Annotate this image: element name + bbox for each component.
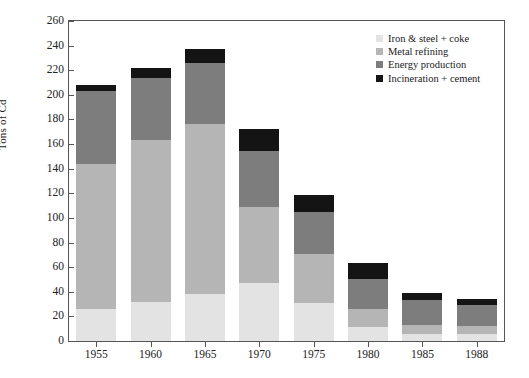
x-axis-tick-mark	[259, 342, 260, 347]
bar-segment[interactable]	[239, 283, 279, 341]
bar-group[interactable]	[239, 129, 279, 341]
bar-segment[interactable]	[239, 129, 279, 151]
legend-swatch-icon	[376, 61, 383, 68]
bar-segment[interactable]	[348, 309, 388, 327]
bar-segment[interactable]	[76, 309, 116, 341]
x-axis-tick-mark	[151, 342, 152, 347]
bar-segment[interactable]	[402, 325, 442, 334]
bar-segment[interactable]	[457, 334, 497, 341]
x-axis-tick-label: 1988	[447, 348, 507, 360]
stacked-bar-chart: Tons of Cd Iron & steel + cokeMetal refi…	[0, 0, 529, 378]
legend-item[interactable]: Incineration + cement	[376, 72, 480, 85]
y-axis-tick-label: 60	[0, 261, 64, 273]
legend-swatch-icon	[376, 48, 383, 55]
y-axis-tick-mark	[68, 70, 74, 71]
x-axis-tick-label: 1960	[121, 348, 181, 360]
y-axis-tick-label: 180	[0, 114, 64, 126]
legend-item[interactable]: Metal refining	[376, 45, 480, 58]
y-axis-tick-label: 240	[0, 40, 64, 52]
y-axis-tick-label: 200	[0, 89, 64, 101]
bar-segment[interactable]	[402, 293, 442, 300]
y-axis-tick-mark	[68, 95, 74, 96]
x-axis-tick-mark	[477, 342, 478, 347]
y-axis-tick-label: 0	[0, 335, 64, 347]
bar-segment[interactable]	[294, 212, 334, 254]
y-axis-tick-label: 220	[0, 64, 64, 76]
legend-swatch-icon	[376, 35, 383, 42]
bar-segment[interactable]	[185, 124, 225, 294]
bar-group[interactable]	[402, 293, 442, 341]
bar-segment[interactable]	[185, 294, 225, 341]
y-axis-tick-mark	[68, 218, 74, 219]
bar-segment[interactable]	[294, 303, 334, 341]
bar-segment[interactable]	[457, 326, 497, 333]
legend-item-label: Incineration + cement	[388, 72, 480, 85]
bar-group[interactable]	[185, 49, 225, 341]
y-axis-tick-mark	[68, 316, 74, 317]
bar-group[interactable]	[348, 263, 388, 341]
x-axis-tick-label: 1975	[284, 348, 344, 360]
y-axis-tick-label: 120	[0, 188, 64, 200]
legend-item[interactable]: Energy production	[376, 58, 480, 71]
legend-item-label: Energy production	[388, 58, 466, 71]
legend-swatch-icon	[376, 75, 383, 82]
bar-segment[interactable]	[131, 140, 171, 301]
y-axis-tick-mark	[68, 169, 74, 170]
y-axis-tick-mark	[68, 267, 74, 268]
x-axis-tick-label: 1980	[338, 348, 398, 360]
bar-segment[interactable]	[239, 207, 279, 283]
bar-segment[interactable]	[402, 334, 442, 341]
bar-segment[interactable]	[294, 195, 334, 212]
y-axis-tick-mark	[68, 341, 74, 342]
x-axis-tick-label: 1970	[229, 348, 289, 360]
bar-group[interactable]	[131, 68, 171, 341]
x-axis-tick-mark	[368, 342, 369, 347]
bar-segment[interactable]	[348, 279, 388, 309]
bar-group[interactable]	[76, 85, 116, 341]
bar-segment[interactable]	[348, 327, 388, 341]
y-axis-tick-label: 260	[0, 15, 64, 27]
bar-segment[interactable]	[131, 68, 171, 78]
bar-segment[interactable]	[76, 164, 116, 309]
bar-segment[interactable]	[294, 254, 334, 303]
x-axis-tick-label: 1955	[66, 348, 126, 360]
y-axis-tick-label: 40	[0, 286, 64, 298]
bar-segment[interactable]	[239, 151, 279, 206]
bar-segment[interactable]	[131, 78, 171, 141]
legend-item-label: Iron & steel + coke	[388, 32, 469, 45]
y-axis-tick-label: 100	[0, 212, 64, 224]
y-axis-tick-mark	[68, 144, 74, 145]
legend-item[interactable]: Iron & steel + coke	[376, 32, 480, 45]
y-axis-tick-mark	[68, 46, 74, 47]
bar-segment[interactable]	[402, 300, 442, 325]
x-axis-tick-mark	[96, 342, 97, 347]
x-axis-tick-mark	[422, 342, 423, 347]
bar-segment[interactable]	[131, 302, 171, 341]
x-axis-tick-label: 1985	[392, 348, 452, 360]
bar-group[interactable]	[294, 195, 334, 341]
y-axis-tick-mark	[68, 119, 74, 120]
bar-segment[interactable]	[76, 91, 116, 164]
y-axis-tick-mark	[68, 243, 74, 244]
y-axis-tick-label: 20	[0, 311, 64, 323]
x-axis-tick-mark	[205, 342, 206, 347]
bar-segment[interactable]	[185, 49, 225, 63]
y-axis-tick-label: 80	[0, 237, 64, 249]
bar-segment[interactable]	[348, 263, 388, 279]
chart-legend: Iron & steel + cokeMetal refiningEnergy …	[376, 32, 480, 85]
bar-segment[interactable]	[185, 63, 225, 125]
y-axis-tick-mark	[68, 292, 74, 293]
y-axis-tick-label: 160	[0, 138, 64, 150]
bar-segment[interactable]	[457, 305, 497, 326]
x-axis-tick-mark	[314, 342, 315, 347]
bar-group[interactable]	[457, 299, 497, 341]
y-axis-tick-label: 140	[0, 163, 64, 175]
x-axis-tick-label: 1965	[175, 348, 235, 360]
legend-item-label: Metal refining	[388, 45, 448, 58]
y-axis-tick-mark	[68, 21, 74, 22]
y-axis-tick-mark	[68, 193, 74, 194]
